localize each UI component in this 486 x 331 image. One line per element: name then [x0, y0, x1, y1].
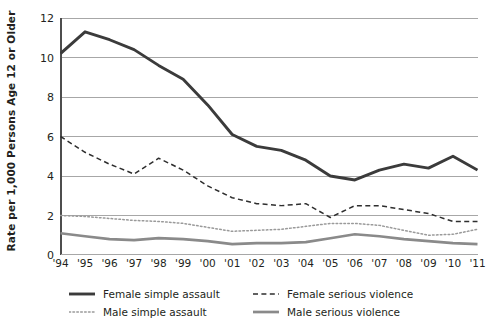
y-tick-label-8: 8: [47, 92, 54, 103]
legend-item-label: Male simple assault: [103, 306, 207, 318]
x-tick-label-03: '03: [273, 257, 289, 270]
x-tick-label-94: '94: [52, 257, 68, 270]
gridlines-group: [60, 18, 478, 216]
x-tick-label-09: '09: [420, 257, 436, 270]
legend-row: Male simple assaultMale serious violence: [60, 303, 478, 320]
series-line-male-serious-violence: [61, 233, 478, 244]
x-tick-label-05: '05: [322, 257, 338, 270]
legend-item-label: Female simple assault: [103, 288, 220, 300]
y-axis-title-text: Rate per 1,000 Persons Age 12 or Older: [5, 11, 17, 252]
x-tick-label-06: '06: [347, 257, 363, 270]
y-tick-label-6: 6: [47, 131, 54, 142]
x-tick-label-10: '10: [445, 257, 461, 270]
y-tick-label-4: 4: [47, 171, 54, 182]
legend-item-female-simple-assault[interactable]: Female simple assault: [60, 285, 247, 302]
plot-canvas: [60, 18, 478, 255]
y-tick-label-10: 10: [40, 52, 54, 63]
thick-solid-dark-line-icon: [69, 288, 95, 300]
x-tick-label-01: '01: [224, 257, 240, 270]
plot-area: [60, 18, 478, 255]
x-tick-label-99: '99: [175, 257, 191, 270]
legend-item-female-serious-violence[interactable]: Female serious violence: [247, 285, 453, 302]
chart-legend: Female simple assaultFemale serious viol…: [60, 285, 478, 325]
x-axis-tick-labels: '94'95'96'97'98'99'00'01'02'03'04'05'06'…: [60, 257, 478, 275]
series-line-female-simple-assault: [61, 32, 478, 180]
x-tick-label-96: '96: [101, 257, 117, 270]
series-line-male-simple-assault: [61, 216, 478, 236]
x-tick-label-08: '08: [396, 257, 412, 270]
dashed-dark-line-icon: [253, 288, 279, 300]
x-tick-label-00: '00: [200, 257, 216, 270]
y-axis-title: Rate per 1,000 Persons Age 12 or Older: [0, 0, 22, 262]
x-tick-label-02: '02: [249, 257, 265, 270]
legend-item-label: Female serious violence: [287, 288, 413, 300]
legend-row: Female simple assaultFemale serious viol…: [60, 285, 478, 302]
x-tick-label-97: '97: [126, 257, 142, 270]
data-series-group: [61, 32, 478, 244]
x-tick-label-98: '98: [150, 257, 166, 270]
x-tick-label-07: '07: [371, 257, 387, 270]
legend-item-male-serious-violence[interactable]: Male serious violence: [247, 303, 453, 320]
legend-item-label: Male serious violence: [287, 306, 400, 318]
x-tick-label-11: '11: [469, 257, 485, 270]
thick-solid-gray-line-icon: [253, 306, 279, 318]
legend-item-male-simple-assault[interactable]: Male simple assault: [60, 303, 247, 320]
x-tick-label-95: '95: [77, 257, 93, 270]
y-tick-label-2: 2: [47, 210, 54, 221]
x-tick-label-04: '04: [298, 257, 314, 270]
dotted-gray-line-icon: [69, 306, 95, 318]
y-tick-label-12: 12: [40, 13, 54, 24]
y-axis-tick-labels: 121086420: [22, 0, 58, 262]
